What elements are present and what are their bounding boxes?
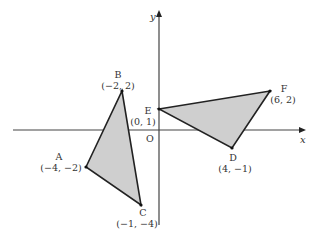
point-a <box>84 165 87 168</box>
origin-label: O <box>146 133 154 144</box>
label-e-coord: (0, 1) <box>130 116 156 127</box>
label-f-name: F <box>281 83 288 94</box>
label-b-coord: (−2, 2) <box>101 80 135 91</box>
label-a-name: A <box>55 151 63 162</box>
x-axis-label: x <box>300 134 306 145</box>
coordinate-diagram: x y O A (−4, −2) B (−2, 2) C (−1, −4) D … <box>0 0 316 244</box>
point-d <box>230 146 233 149</box>
y-axis-arrow-icon <box>156 10 162 17</box>
label-b-name: B <box>115 69 122 80</box>
point-e <box>157 107 160 110</box>
label-f-coord: (6, 2) <box>270 94 296 105</box>
x-axis-arrow-icon <box>299 127 306 133</box>
label-a-coord: (−4, −2) <box>40 162 81 173</box>
triangle-abc <box>86 91 141 205</box>
label-c-coord: (−1, −4) <box>116 218 157 229</box>
triangle-def <box>159 91 270 148</box>
y-axis-label: y <box>149 11 156 22</box>
label-e-name: E <box>145 105 152 116</box>
label-d-coord: (4, −1) <box>218 163 252 174</box>
label-c-name: C <box>139 207 146 218</box>
point-f <box>268 89 271 92</box>
label-d-name: D <box>229 152 237 163</box>
